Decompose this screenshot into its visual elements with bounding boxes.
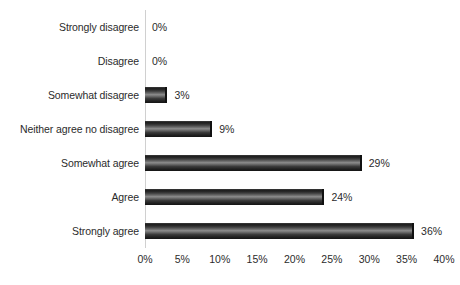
bar-value-label: 29% bbox=[369, 155, 390, 171]
bar-value-label: 9% bbox=[219, 121, 234, 137]
bar-chart: Strongly disagree Disagree Somewhat disa… bbox=[0, 0, 460, 285]
x-axis-labels: 0% 5% 10% 15% 20% 25% 30% 35% 40% bbox=[0, 252, 460, 270]
y-axis-labels: Strongly disagree Disagree Somewhat disa… bbox=[0, 0, 139, 285]
y-axis-label: Neither agree no disagree bbox=[0, 123, 139, 135]
x-axis-tick: 10% bbox=[209, 252, 230, 266]
bar-value-label: 36% bbox=[421, 223, 442, 239]
bar-value-label: 24% bbox=[331, 189, 352, 205]
x-axis-tick: 0% bbox=[137, 252, 152, 266]
x-axis-tick: 40% bbox=[433, 252, 454, 266]
bar[interactable] bbox=[145, 121, 212, 137]
x-axis-tick: 30% bbox=[359, 252, 380, 266]
bar[interactable] bbox=[145, 155, 362, 171]
y-axis-label: Somewhat agree bbox=[0, 157, 139, 169]
plot-area: 0% 0% 3% 9% 29% 24% 36% bbox=[145, 10, 445, 248]
y-axis-label: Somewhat disagree bbox=[0, 89, 139, 101]
x-axis-tick: 20% bbox=[284, 252, 305, 266]
bar[interactable] bbox=[145, 223, 414, 239]
x-axis-tick: 25% bbox=[321, 252, 342, 266]
y-axis-label: Agree bbox=[0, 191, 139, 203]
bar-value-label: 0% bbox=[152, 19, 167, 35]
y-axis-label: Disagree bbox=[0, 55, 139, 67]
bar[interactable] bbox=[145, 87, 167, 103]
bar-value-label: 3% bbox=[174, 87, 189, 103]
y-axis-label: Strongly disagree bbox=[0, 21, 139, 33]
x-axis-tick: 35% bbox=[396, 252, 417, 266]
y-axis-label: Strongly agree bbox=[0, 225, 139, 237]
x-axis-tick: 15% bbox=[247, 252, 268, 266]
bar[interactable] bbox=[145, 189, 324, 205]
bar-value-label: 0% bbox=[152, 53, 167, 69]
x-axis-tick: 5% bbox=[175, 252, 190, 266]
